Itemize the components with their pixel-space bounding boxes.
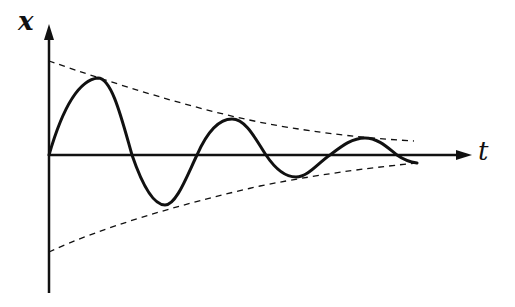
- x-axis-arrowhead-icon: [44, 24, 54, 40]
- lower-envelope: [49, 163, 416, 252]
- horizontal-axis-label: t: [478, 136, 488, 166]
- vertical-axis-label: x: [18, 6, 34, 36]
- t-axis-arrowhead-icon: [456, 150, 472, 160]
- damped-oscillation-curve: [49, 78, 417, 205]
- diagram-canvas: [0, 0, 515, 307]
- upper-envelope: [49, 61, 414, 141]
